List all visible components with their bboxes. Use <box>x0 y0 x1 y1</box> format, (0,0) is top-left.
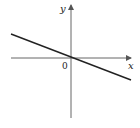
y-axis-label: y <box>59 3 66 14</box>
x-axis-label: x <box>128 60 134 71</box>
origin-label: 0 <box>62 61 68 71</box>
chart-canvas: y x 0 <box>0 0 140 128</box>
